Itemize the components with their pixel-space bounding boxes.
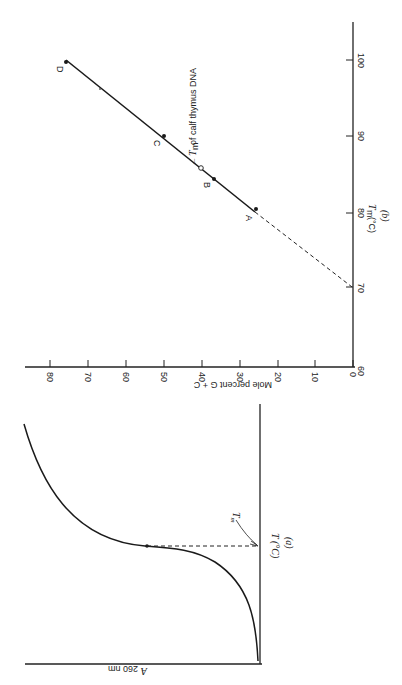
data-point-b	[212, 177, 216, 181]
panel-a: Tm T (°C) (a) A 260 nm	[24, 404, 295, 677]
panel-b-x-tick-labels: 60 70 80 90 100	[356, 53, 366, 376]
panel-a-tm-label: Tm	[229, 512, 242, 523]
svg-text:70: 70	[83, 372, 93, 382]
svg-text:260 nm: 260 nm	[108, 664, 138, 674]
calf-thymus-marker	[199, 166, 204, 171]
svg-text:(b): (b)	[379, 210, 391, 222]
svg-text:60: 60	[121, 372, 131, 382]
svg-text:Tm: Tm	[229, 512, 242, 523]
svg-text:10: 10	[310, 372, 320, 382]
data-point-c	[162, 134, 166, 138]
data-point-a	[254, 207, 258, 211]
fit-line	[66, 60, 255, 212]
svg-text:60: 60	[356, 366, 366, 376]
panel-a-ylabel: A 260 nm	[108, 664, 148, 677]
panel-b-ylabel: Mole percent G + C	[193, 380, 272, 390]
extrapolation-line	[255, 212, 352, 287]
svg-text:of calf thymus DNA: of calf thymus DNA	[188, 68, 198, 145]
tm-arrow	[236, 520, 257, 545]
panel-b: 0 10 20 30 40 50 60 70 80 Mole percent G…	[25, 22, 391, 390]
svg-text:80: 80	[356, 208, 366, 218]
tm-arrowhead-icon	[250, 541, 258, 546]
panel-a-xlabel: T (°C)	[269, 533, 281, 559]
svg-text:100: 100	[356, 53, 366, 68]
svg-text:80: 80	[45, 372, 55, 382]
svg-text:90: 90	[356, 131, 366, 141]
panel-a-caption: (a)	[283, 537, 295, 549]
figure-canvas: Tm T (°C) (a) A 260 nm	[0, 0, 402, 685]
svg-text:20: 20	[273, 372, 283, 382]
panel-b-x-ticks	[346, 60, 353, 287]
panel-b-caption: (b)	[379, 210, 391, 222]
svg-text:T (°C): T (°C)	[269, 533, 281, 559]
label-d: D	[55, 66, 65, 73]
calf-thymus-annotation: ← T m of calf thymus DNA	[187, 68, 200, 166]
melting-curve	[24, 424, 258, 661]
svg-text:(°C): (°C)	[367, 217, 377, 233]
data-point-d	[64, 60, 68, 64]
label-b: B	[202, 182, 212, 188]
svg-text:(a): (a)	[283, 537, 295, 549]
svg-text:70: 70	[356, 283, 366, 293]
label-a: A	[244, 215, 254, 221]
svg-text:←: ←	[188, 157, 198, 166]
svg-text:A: A	[140, 666, 148, 677]
label-c: C	[152, 140, 162, 147]
line-mark	[99, 88, 101, 90]
panel-b-y-ticks	[50, 360, 353, 367]
svg-text:50: 50	[159, 372, 169, 382]
